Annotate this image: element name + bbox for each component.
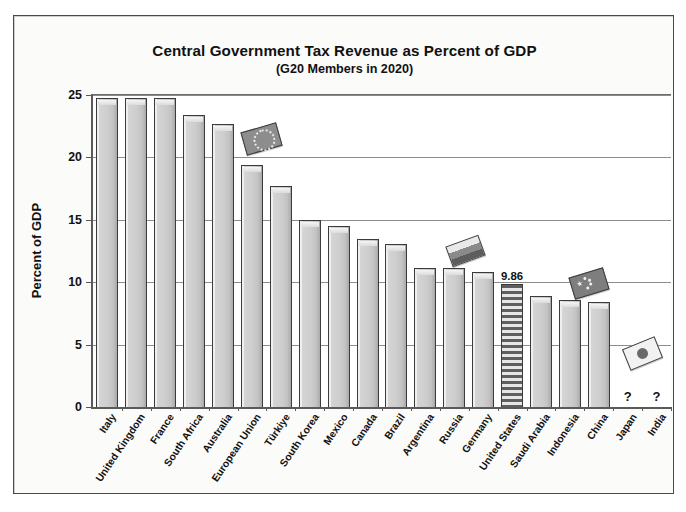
bar-value-label: 9.86 (501, 270, 523, 282)
title-block: Central Government Tax Revenue as Percen… (14, 42, 675, 78)
bar-highlight (301, 222, 319, 227)
x-axis-category-label: China (585, 410, 611, 442)
bar-highlight (272, 188, 290, 193)
bar-highlight (387, 246, 405, 251)
bar-highlight (98, 100, 116, 105)
y-axis-tick-label: 25 (68, 88, 82, 102)
y-axis-title-label: Percent of GDP (30, 202, 45, 297)
x-axis-category-label: India (645, 410, 669, 438)
chart-title: Central Government Tax Revenue as Percen… (14, 42, 675, 59)
gridline (93, 157, 671, 158)
bar-highlight (156, 100, 174, 105)
x-axis-category-label: Italy (98, 410, 120, 435)
x-axis-category-label: Brazil (383, 410, 409, 441)
x-axis-category-label: Russia (437, 410, 466, 446)
bar-highlight (590, 304, 608, 309)
bar (241, 165, 263, 407)
bar (183, 115, 205, 407)
y-axis-tick (86, 345, 92, 346)
y-axis-title: Percent of GDP (28, 94, 46, 406)
bar-highlight (474, 274, 492, 279)
gridline (93, 345, 671, 346)
y-axis-tick (86, 220, 92, 221)
bar-highlight (445, 270, 463, 275)
bar-highlight (532, 298, 550, 303)
bar (96, 98, 118, 408)
y-axis-tick (86, 95, 92, 96)
x-axis-category-label: Türkiye (262, 410, 293, 448)
bar-highlight (243, 167, 261, 172)
bar-highlight (416, 270, 434, 275)
y-axis-tick-label: 5 (75, 338, 82, 352)
y-axis-tick-label: 0 (75, 400, 82, 414)
bar-highlight (214, 126, 232, 131)
bar-highlight (561, 302, 579, 307)
china-small-stars-icon (583, 275, 595, 289)
bar-highlight (330, 228, 348, 233)
bar (125, 98, 147, 408)
bar-highlight (185, 117, 203, 122)
chart-subtitle: (G20 Members in 2020) (14, 61, 675, 77)
x-axis-category-label: France (148, 410, 177, 446)
y-axis-tick-label: 15 (68, 213, 82, 227)
japan-sun-disc-icon (635, 346, 649, 360)
bar-highlight (127, 100, 145, 105)
y-axis-tick-label: 10 (68, 275, 82, 289)
x-axis-category-label: Canada (349, 410, 380, 449)
gridline (93, 220, 671, 221)
bar-highlight (359, 241, 377, 246)
x-axis-category-label: Mexico (321, 410, 351, 447)
y-axis-tick (86, 407, 92, 408)
china-big-star-icon (576, 280, 583, 287)
y-axis-tick (86, 157, 92, 158)
bar (299, 220, 321, 407)
x-axis-category-label: Japan (613, 410, 640, 442)
y-axis-tick-label: 20 (68, 150, 82, 164)
y-axis-tick (86, 282, 92, 283)
chart-page-frame: Central Government Tax Revenue as Percen… (13, 15, 674, 494)
gridline (93, 95, 671, 96)
